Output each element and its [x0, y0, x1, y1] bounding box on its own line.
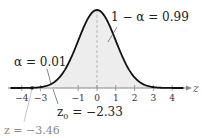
axis-arrow-icon	[186, 86, 192, 91]
tick-label: −1	[72, 93, 85, 103]
confidence-label: 1 − α = 0.99	[111, 10, 189, 24]
critical-value-label: z0 = −2.33	[57, 105, 123, 121]
test-statistic-label: z = −3.46	[4, 124, 60, 137]
tick-label: −3	[34, 93, 48, 103]
axis-label: z	[192, 82, 199, 95]
alpha-label: α = 0.01	[14, 55, 67, 69]
tick-label: 3	[151, 93, 157, 103]
tick-label: 2	[132, 93, 138, 103]
tick-label: 0	[94, 93, 100, 103]
tick-label: 4	[169, 93, 175, 103]
tick-label: −4	[15, 93, 29, 103]
normal-curve-chart: −4−3−101234 1 − α = 0.99 α = 0.01 z0 = −…	[0, 0, 202, 138]
critical-leader-line	[53, 89, 58, 104]
tick-label: 1	[113, 93, 119, 103]
tail-leader-line	[47, 69, 51, 84]
